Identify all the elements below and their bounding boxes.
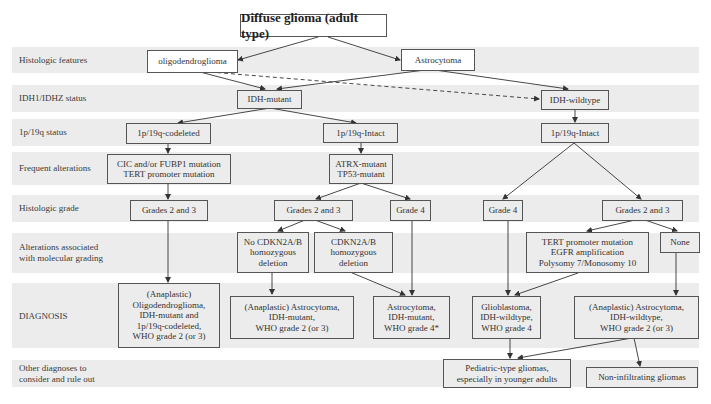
node-no-cdkn2ab-deletion: No CDKN2A/B homozygous deletion [237, 232, 309, 273]
dx-astrocytoma-idh-mutant-g4: Astrocytoma, IDH-mutant, WHO grade 4* [373, 296, 450, 339]
node-astrocytoma: Astrocytoma [401, 49, 475, 71]
band-histologic-features [12, 47, 699, 73]
row-label-other-diagnoses: Other diagnoses to consider and rule out [19, 363, 95, 385]
row-label-molecular-grading: Alterations associated with molecular gr… [19, 242, 103, 264]
node-idh-wildtype: IDH-wildtype [541, 90, 609, 110]
node-atrx-tp53: ATRX-mutant TP53-mutant [329, 154, 393, 184]
node-none: None [660, 232, 700, 253]
node-grade-4-mid: Grade 4 [390, 200, 431, 221]
node-tert-egfr-polysomy: TERT promoter mutation EGFR amplificatio… [526, 232, 649, 273]
node-grades-2-3-mid: Grades 2 and 3 [274, 200, 353, 221]
row-label-histologic-grade: Histologic grade [19, 203, 79, 214]
node-grades-2-3-left: Grades 2 and 3 [130, 200, 208, 221]
node-grade-4-right: Grade 4 [483, 200, 523, 221]
row-label-histologic-features: Histologic features [19, 55, 87, 66]
node-cic-fubp1-tert: CIC and/or FUBP1 mutation TERT promoter … [107, 154, 231, 184]
node-1p19q-intact-mid: 1p/19q-Intact [323, 123, 398, 143]
dx-oligodendroglioma: (Anaplastic) Oligodendroglioma, IDH-muta… [118, 283, 220, 348]
row-label-1p19q-status: 1p/19q status [19, 127, 67, 138]
band-histologic-grade [12, 195, 699, 222]
other-pediatric-type-gliomas: Pediatric-type gliomas, especially in yo… [443, 359, 571, 388]
row-label-diagnosis: DIAGNOSIS [19, 311, 68, 322]
diagram-title: Diffuse glioma (adult type) [240, 14, 387, 37]
dx-astrocytoma-idh-mutant-g2-3: (Anaplastic) Astrocytoma, IDH-mutant, WH… [230, 296, 354, 339]
node-1p19q-intact-right: 1p/19q-Intact [541, 123, 609, 143]
dx-glioblastoma-idh-wildtype: Glioblastoma, IDH-wildtype, WHO grade 4 [472, 296, 541, 339]
node-1p19q-codeleted: 1p/19q-codeleted [126, 123, 211, 144]
node-idh-mutant: IDH-mutant [237, 90, 302, 109]
node-grades-2-3-right: Grades 2 and 3 [602, 200, 683, 221]
node-oligodendroglioma: oligodendroglioma [147, 50, 238, 73]
node-cdkn2ab-deletion: CDKN2A/B homozygous deletion [314, 232, 393, 273]
dx-astrocytoma-idh-wildtype: (Anaplastic) Astrocytoma, IDH-wildtype, … [574, 296, 699, 339]
row-label-frequent-alterations: Frequent alterations [19, 163, 91, 174]
other-non-infiltrating-gliomas: Non-infiltrating gliomas [586, 367, 698, 388]
row-label-idh-status: IDH1/IDHZ status [19, 93, 86, 104]
